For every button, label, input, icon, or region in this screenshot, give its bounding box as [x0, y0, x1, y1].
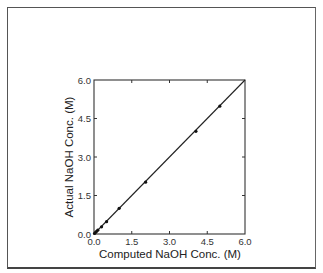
- scatter-chart: 0.01.53.04.56.0 0.01.53.04.56.0 Computed…: [0, 0, 323, 273]
- data-point: [100, 225, 103, 228]
- y-tick-label: 4.5: [78, 113, 91, 124]
- y-tick-labels: 0.01.53.04.56.0: [78, 75, 91, 240]
- data-point: [218, 105, 221, 108]
- data-point: [105, 220, 108, 223]
- data-point: [144, 181, 147, 184]
- y-tick-label: 0.0: [78, 229, 91, 240]
- x-axis-title: Computed NaOH Conc. (M): [99, 248, 241, 260]
- data-point: [96, 229, 99, 232]
- reference-line-group: [94, 80, 245, 234]
- y-tick-label: 1.5: [78, 190, 91, 201]
- y-axis-title: Actual NaOH Conc. (M): [63, 96, 75, 217]
- x-tick-label: 3.0: [163, 236, 176, 247]
- x-tick-label: 1.5: [125, 236, 138, 247]
- x-tick-label: 6.0: [238, 236, 251, 247]
- y-tick-label: 6.0: [78, 75, 91, 86]
- data-point: [118, 207, 121, 210]
- data-point: [194, 130, 197, 133]
- x-tick-labels: 0.01.53.04.56.0: [87, 236, 251, 247]
- x-tick-label: 4.5: [201, 236, 214, 247]
- reference-line: [94, 80, 245, 234]
- y-tick-label: 3.0: [78, 152, 91, 163]
